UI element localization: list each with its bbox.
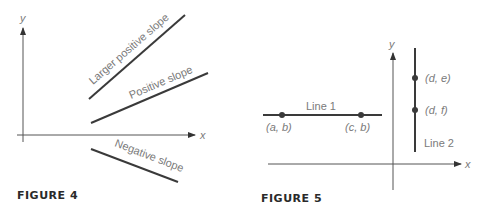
fig5-x-axis-label: x <box>464 158 471 170</box>
point-d-f <box>412 107 418 113</box>
figure-4-caption: FIGURE 4 <box>17 189 78 202</box>
figure-4: y x Larger positive slope Positive slope… <box>17 11 208 182</box>
point-a-b <box>279 112 285 118</box>
larger-positive-slope-label: Larger positive slope <box>86 11 170 87</box>
fig4-x-axis-label: x <box>199 129 206 141</box>
diagram-canvas: y x Larger positive slope Positive slope… <box>0 0 482 216</box>
point-c-b-label: (c, b) <box>345 121 370 133</box>
point-a-b-label: (a, b) <box>266 121 292 133</box>
point-d-e <box>412 75 418 81</box>
point-d-e-label: (d, e) <box>425 72 451 84</box>
point-d-f-label: (d, f) <box>425 104 448 116</box>
positive-slope-label: Positive slope <box>127 63 194 101</box>
figure-5: y x Line 1 (a, b) (c, b) (d, e) (d, f) L… <box>263 38 471 190</box>
line-2-label: Line 2 <box>424 137 454 149</box>
fig4-y-axis-label: y <box>19 12 27 24</box>
point-c-b <box>358 112 364 118</box>
figure-5-caption: FIGURE 5 <box>261 192 322 205</box>
fig5-y-axis-label: y <box>388 38 396 50</box>
line-1-label: Line 1 <box>306 100 336 112</box>
negative-slope-label: Negative slope <box>113 137 185 174</box>
